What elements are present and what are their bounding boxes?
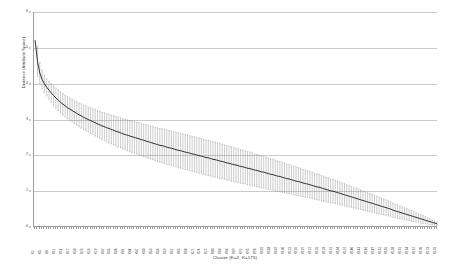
x-axis-tick-label: K122 — [309, 247, 312, 254]
x-axis-tick-label: K26 — [88, 248, 91, 254]
x-axis-tick-label: K104 — [268, 247, 271, 254]
y-axis-tick-mark — [29, 12, 31, 13]
x-axis-tick-label: K5 — [39, 250, 42, 254]
x-axis-tick-label: K14 — [60, 248, 63, 254]
y-axis-tick-mark — [29, 227, 31, 228]
x-axis-tick-label: K98 — [254, 248, 257, 254]
x-axis-title: Cluster (K=2, K=175) — [33, 255, 437, 260]
x-axis-tick-label: K20 — [74, 248, 77, 254]
y-axis-tick-mark — [29, 47, 31, 48]
y-axis-tick-mark — [29, 119, 31, 120]
x-axis-tick-label: K110 — [281, 247, 284, 254]
x-axis-tick-label: K113 — [288, 247, 291, 254]
y-axis-tick-label: 5 — [26, 46, 28, 50]
x-axis-tick-label: K23 — [81, 248, 84, 254]
x-axis-tick-label: K116 — [295, 247, 298, 254]
x-axis-tick-label: K11 — [53, 249, 56, 254]
x-axis-tick-label: K101 — [261, 247, 264, 254]
y-axis-tick-mark — [29, 155, 31, 156]
x-axis-tick-labels: K2K5K8K11K14K17K20K23K26K29K32K35K38K41K… — [33, 228, 437, 254]
x-axis-tick-label: K47 — [136, 248, 139, 254]
x-axis-tick-label: K164 — [406, 247, 409, 254]
y-axis-tick-mark — [29, 191, 31, 192]
x-axis-tick-label: K29 — [94, 248, 97, 254]
x-axis-tick-label: K137 — [344, 247, 347, 254]
x-axis-tick-label: K44 — [129, 248, 132, 254]
x-axis-tick-label: K167 — [413, 247, 416, 254]
x-axis-tick-label: K140 — [351, 247, 354, 254]
y-axis-tick-label: 4 — [26, 82, 28, 86]
x-axis-tick-label: K53 — [150, 248, 153, 254]
x-axis-tick-label: K35 — [108, 248, 111, 254]
x-axis-tick-label: K119 — [302, 247, 305, 254]
x-axis-tick-label: K8 — [46, 250, 49, 254]
x-axis-tick-label: K71 — [191, 248, 194, 254]
x-axis-tick-label: K80 — [212, 248, 215, 254]
x-axis-tick-label: K62 — [171, 248, 174, 254]
x-axis-tick-label: K170 — [420, 247, 423, 254]
x-axis-tick-label: K107 — [275, 247, 278, 254]
x-axis-tick-label: K161 — [399, 247, 402, 254]
x-axis-tick-label: K38 — [115, 248, 118, 254]
x-axis-tick-label: K77 — [205, 248, 208, 254]
x-axis-tick-label: K86 — [226, 248, 229, 254]
x-axis-tick-label: K65 — [178, 248, 181, 254]
x-axis-tick-label: K176 — [434, 247, 437, 254]
x-axis-tick-label: K134 — [337, 247, 340, 254]
y-axis-tick-label: 6 — [26, 10, 28, 14]
y-axis-tick-labels: 0123456 — [0, 12, 31, 227]
y-axis-tick-label: 2 — [26, 154, 28, 158]
error-bar-paths — [37, 46, 438, 225]
x-axis-tick-label: K131 — [330, 247, 333, 254]
x-axis-tick-label: K95 — [247, 248, 250, 254]
x-axis-tick-label: K2 — [32, 250, 35, 254]
y-axis-tick-label: 1 — [26, 189, 28, 193]
error-bars — [37, 46, 438, 225]
x-axis-tick-label: K173 — [427, 247, 430, 254]
data-series-layer — [34, 12, 438, 227]
x-axis-tick-label: K32 — [101, 248, 104, 254]
x-axis-tick-label: K89 — [233, 248, 236, 254]
x-axis-tick-label: K41 — [122, 248, 125, 254]
x-axis-tick-label: K146 — [365, 247, 368, 254]
x-axis-tick-label: K92 — [240, 248, 243, 254]
x-axis-tick-label: K125 — [316, 247, 319, 254]
y-axis-tick-label: 3 — [26, 118, 28, 122]
x-axis-tick-label: K17 — [67, 248, 70, 254]
x-axis-tick-label: K149 — [372, 247, 375, 254]
x-axis-tick-label: K143 — [358, 247, 361, 254]
y-axis-tick-label: 0 — [26, 225, 28, 229]
y-axis-tick-mark — [29, 83, 31, 84]
x-axis-tick-label: K56 — [157, 248, 160, 254]
x-axis-tick-label: K68 — [185, 248, 188, 254]
plot-area — [33, 12, 437, 227]
x-axis-tick-label: K59 — [164, 248, 167, 254]
x-axis-tick-label: K83 — [219, 248, 222, 254]
x-axis-tick-label: K155 — [385, 247, 388, 254]
chart-figure: Distance (Attribute Space) 0123456 K2K5K… — [0, 0, 450, 272]
x-axis-tick-label: K152 — [378, 247, 381, 254]
x-axis-tick-label: K128 — [323, 247, 326, 254]
x-axis-tick-label: K158 — [392, 247, 395, 254]
x-axis-tick-label: K74 — [198, 248, 201, 254]
x-axis-tick-label: K50 — [143, 248, 146, 254]
